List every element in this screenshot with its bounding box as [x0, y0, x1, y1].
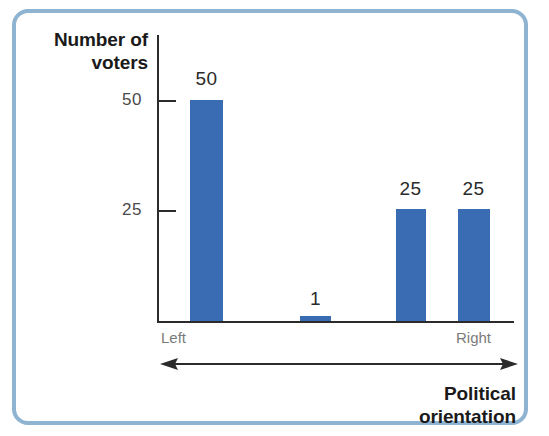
- bar: [396, 209, 426, 321]
- x-axis-line: [157, 321, 514, 323]
- double-headed-arrow-icon: [160, 353, 518, 377]
- bar: [458, 209, 490, 321]
- x-axis-title-line-2: orientation: [330, 405, 516, 428]
- x-axis-title: Political orientation: [330, 382, 516, 428]
- bar-chart: Number of voters 50 25 5012525 Left Righ…: [0, 0, 549, 436]
- y-axis-title: Number of voters: [20, 28, 148, 74]
- y-axis-tick-25: [159, 210, 176, 212]
- bar: [300, 316, 331, 321]
- bar-value-label: 25: [451, 178, 496, 200]
- bar-value-label: 1: [293, 288, 338, 310]
- y-axis-tick-label-50: 50: [78, 90, 142, 110]
- x-axis-label-right: Right: [456, 329, 491, 346]
- y-axis-title-line-2: voters: [20, 51, 148, 74]
- y-axis-tick-50: [159, 100, 176, 102]
- y-axis-title-line-1: Number of: [20, 28, 148, 51]
- bar-value-label: 25: [388, 178, 433, 200]
- x-axis-label-left: Left: [161, 329, 186, 346]
- y-axis-line: [157, 35, 159, 323]
- bar-value-label: 50: [184, 68, 229, 90]
- bar: [190, 100, 223, 321]
- x-axis-title-line-1: Political: [330, 382, 516, 405]
- y-axis-tick-label-25: 25: [78, 200, 142, 220]
